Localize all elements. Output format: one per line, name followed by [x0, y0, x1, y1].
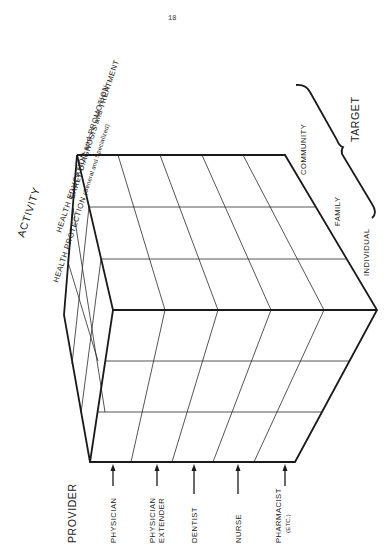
provider-item-dentist: DENTIST [190, 507, 199, 543]
provider-item-physician-extender: PHYSICIAN EXTENDER [148, 498, 166, 543]
cube-top-face [89, 155, 346, 310]
target-labels: TARGET COMMUNITY FAMILY INDIVIDUAL [299, 97, 371, 276]
activity-labels: ACTIVITY HEALTH PROTECTION (General and … [14, 58, 120, 283]
arrow-up-icon [283, 464, 288, 486]
activity-title: ACTIVITY [14, 185, 42, 238]
target-item-family: FAMILY [333, 197, 342, 226]
svg-text:EXTENDER: EXTENDER [157, 498, 166, 543]
cube-outline [64, 155, 377, 462]
svg-text:PHYSICIAN: PHYSICIAN [148, 498, 157, 543]
svg-text:(ETC.): (ETC.) [285, 514, 291, 533]
activity-item-early-diagnosis: EARLY DIAGNOSIS and TREATMENT [67, 58, 121, 199]
cube-front-face [98, 310, 350, 462]
provider-title: PROVIDER [66, 483, 78, 543]
cube-diagram: 18 ACTIVITY HEAL [0, 0, 392, 550]
page-number: 18 [168, 14, 176, 22]
provider-item-nurse: NURSE [234, 514, 243, 543]
svg-text:PHARMACIST: PHARMACIST [274, 488, 283, 543]
provider-arrows [111, 464, 288, 494]
provider-item-pharmacist: PHARMACIST (ETC.) [274, 488, 291, 543]
provider-labels: PROVIDER PHYSICIAN [66, 464, 291, 543]
arrow-up-icon [155, 464, 160, 486]
arrow-up-icon [192, 464, 197, 494]
target-item-community: COMMUNITY [299, 124, 308, 175]
target-item-individual: INDIVIDUAL [362, 228, 371, 276]
provider-item-physician: PHYSICIAN [109, 498, 118, 543]
arrow-up-icon [111, 464, 116, 486]
arrow-up-icon [236, 464, 241, 494]
target-title: TARGET [349, 97, 361, 142]
